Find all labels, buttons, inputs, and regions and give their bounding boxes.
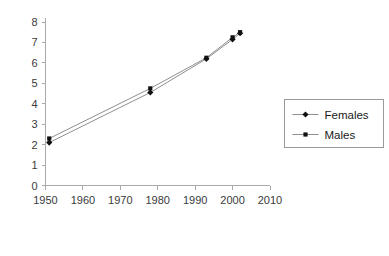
x-tick-label: 1970 xyxy=(108,194,132,206)
chart-legend: FemalesMales xyxy=(285,100,384,148)
plot-area xyxy=(46,30,243,146)
y-tick-label: 8 xyxy=(31,16,37,28)
legend-label-females: Females xyxy=(325,109,369,121)
y-tick-label: 0 xyxy=(31,180,37,192)
y-axis-ticks xyxy=(42,22,46,186)
data-point-males xyxy=(204,56,208,60)
series-lines xyxy=(49,32,240,142)
y-tick-label: 2 xyxy=(31,139,37,151)
x-tick-label: 1990 xyxy=(183,194,207,206)
series-line-males xyxy=(49,32,240,138)
x-axis: 1950196019701980199020002010 xyxy=(33,186,282,206)
data-point-males xyxy=(238,30,242,34)
data-point-males xyxy=(230,35,234,39)
x-tick-label: 1980 xyxy=(146,194,170,206)
data-point-males xyxy=(47,136,51,140)
y-tick-label: 3 xyxy=(31,118,37,130)
y-tick-label: 5 xyxy=(31,77,37,89)
line-chart: 012345678 1950196019701980199020002010 F… xyxy=(0,0,389,256)
y-tick-label: 1 xyxy=(31,159,37,171)
y-axis: 012345678 xyxy=(31,16,45,192)
x-axis-ticks xyxy=(46,186,271,190)
x-tick-label: 2010 xyxy=(258,194,282,206)
series-line-females xyxy=(49,33,240,142)
y-axis-tick-labels: 012345678 xyxy=(31,16,37,192)
chart-container: 012345678 1950196019701980199020002010 F… xyxy=(0,0,389,256)
series-markers xyxy=(46,30,243,146)
x-axis-tick-labels: 1950196019701980199020002010 xyxy=(33,194,282,206)
legend-label-males: Males xyxy=(325,129,356,141)
data-point-males xyxy=(148,86,152,90)
y-tick-label: 4 xyxy=(31,98,37,110)
x-tick-label: 1960 xyxy=(71,194,95,206)
legend-marker-males xyxy=(303,132,307,136)
y-tick-label: 7 xyxy=(31,36,37,48)
x-tick-label: 1950 xyxy=(33,194,57,206)
x-tick-label: 2000 xyxy=(220,194,244,206)
y-tick-label: 6 xyxy=(31,57,37,69)
